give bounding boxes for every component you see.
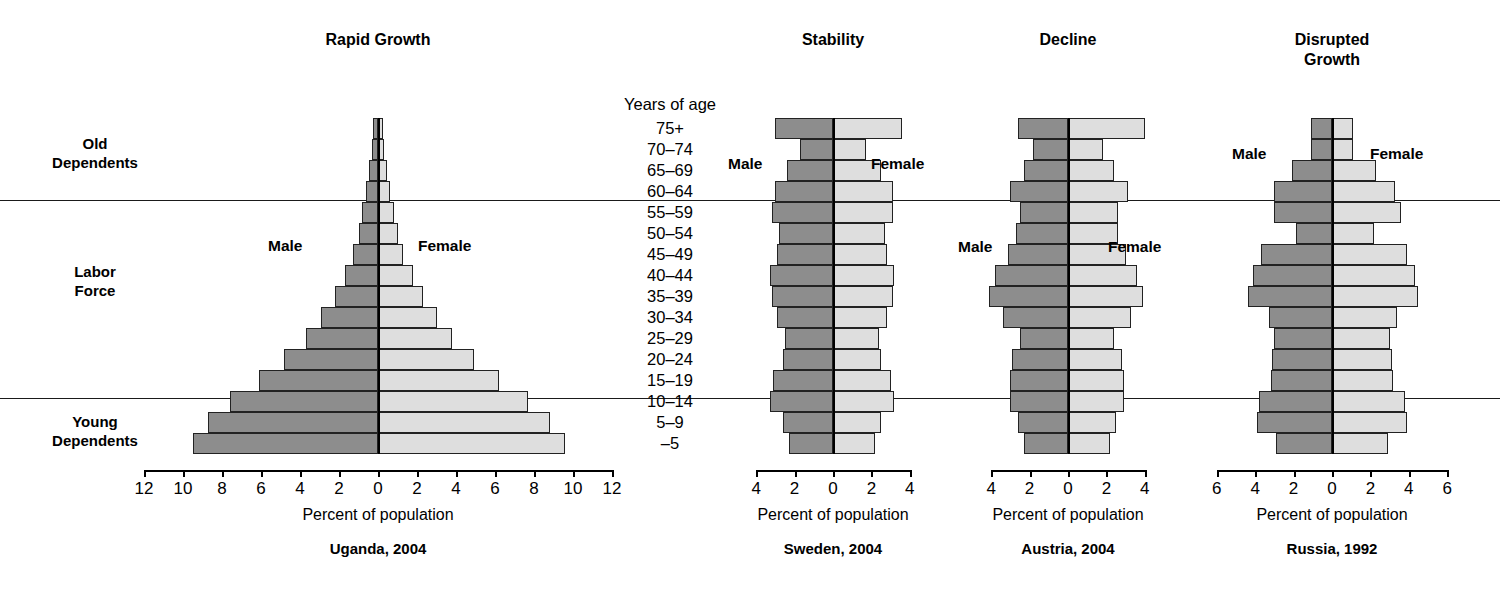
- x-axis-tick-label: 2: [397, 479, 437, 499]
- x-axis-tick-label: 6: [475, 479, 515, 499]
- x-axis-tick: [1409, 470, 1411, 477]
- panel-title-russia: Disrupted Growth: [1232, 30, 1432, 70]
- x-axis-tick: [456, 470, 458, 477]
- x-axis-tick-label: 6: [241, 479, 281, 499]
- pyramid-row: [0, 307, 1500, 328]
- x-axis-tick-label: 10: [553, 479, 593, 499]
- panel-title-austria: Decline: [968, 30, 1168, 50]
- x-axis-tick-label: 12: [124, 479, 164, 499]
- x-axis-tick: [222, 470, 224, 477]
- x-axis-tick: [378, 470, 380, 477]
- bar-male: [1311, 139, 1332, 160]
- x-axis-tick-label: 2: [775, 479, 815, 499]
- x-axis-tick: [495, 470, 497, 477]
- bar-female: [1332, 391, 1405, 412]
- x-axis-tick: [261, 470, 263, 477]
- x-axis-tick-label: 0: [813, 479, 853, 499]
- x-axis-label-russia: Percent of population: [1172, 506, 1492, 524]
- bar-female: [1332, 244, 1407, 265]
- bar-male: [1253, 265, 1332, 286]
- x-axis-tick: [756, 470, 758, 477]
- x-axis-tick-label: 10: [163, 479, 203, 499]
- bar-male: [1296, 223, 1332, 244]
- bar-female: [1332, 412, 1407, 433]
- age-axis-title: Years of age: [570, 95, 770, 114]
- bar-male: [1272, 349, 1332, 370]
- bar-female: [1332, 118, 1353, 139]
- x-axis-tick: [1145, 470, 1147, 477]
- x-axis-tick: [183, 470, 185, 477]
- x-axis-tick: [1255, 470, 1257, 477]
- bar-male: [1269, 307, 1332, 328]
- x-axis-tick: [1106, 470, 1108, 477]
- pyramid-row: [0, 160, 1500, 181]
- x-axis-tick-label: 2: [319, 479, 359, 499]
- x-axis-tick-label: 0: [1048, 479, 1088, 499]
- pyramid-row: [0, 181, 1500, 202]
- pyramid-row: [0, 223, 1500, 244]
- x-axis-tick: [1332, 470, 1334, 477]
- x-axis-tick-label: 2: [851, 479, 891, 499]
- x-axis-tick-label: 2: [1086, 479, 1126, 499]
- x-axis-tick: [612, 470, 614, 477]
- pyramid-row: [0, 202, 1500, 223]
- x-axis-tick: [991, 470, 993, 477]
- bar-male: [1276, 433, 1332, 454]
- bar-female: [1332, 328, 1390, 349]
- x-axis-tick-label: 2: [1350, 479, 1390, 499]
- x-axis-tick-label: 4: [1125, 479, 1165, 499]
- pyramid-row: [0, 412, 1500, 433]
- panel-title-uganda: Rapid Growth: [228, 30, 528, 50]
- x-axis-tick-label: 4: [436, 479, 476, 499]
- x-axis-tick: [1217, 470, 1219, 477]
- bar-male: [1311, 118, 1332, 139]
- pyramid-row: [0, 370, 1500, 391]
- bar-male: [1271, 370, 1332, 391]
- female-legend-label-russia: Female: [1370, 145, 1423, 163]
- bar-female: [1332, 307, 1397, 328]
- x-axis-tick: [573, 470, 575, 477]
- x-axis-tick-label: 6: [1197, 479, 1237, 499]
- panel-caption-russia: Russia, 1992: [1172, 540, 1492, 557]
- pyramid-row: [0, 265, 1500, 286]
- pyramid-row: [0, 139, 1500, 160]
- x-axis-tick-label: 2: [1010, 479, 1050, 499]
- pyramid-row: [0, 118, 1500, 139]
- bar-male: [1292, 160, 1332, 181]
- x-axis-tick-label: 0: [1312, 479, 1352, 499]
- panel-title-sweden: Stability: [733, 30, 933, 50]
- x-axis-tick: [1447, 470, 1449, 477]
- bar-female: [1332, 433, 1388, 454]
- bar-female: [1332, 160, 1376, 181]
- bar-female: [1332, 265, 1415, 286]
- x-axis-tick-label: 4: [1389, 479, 1429, 499]
- bar-male: [1274, 328, 1332, 349]
- panel-caption-uganda: Uganda, 2004: [218, 540, 538, 557]
- bar-male: [1257, 412, 1332, 433]
- x-axis-tick: [1294, 470, 1296, 477]
- x-axis-tick-label: 4: [736, 479, 776, 499]
- pyramid-row: [0, 349, 1500, 370]
- bar-female: [1332, 349, 1392, 370]
- bar-female: [1332, 370, 1393, 391]
- bar-male: [1259, 391, 1332, 412]
- x-axis-label-uganda: Percent of population: [218, 506, 538, 524]
- x-axis-tick-label: 12: [592, 479, 632, 499]
- x-axis-tick-label: 6: [1427, 479, 1467, 499]
- bar-female: [1332, 286, 1418, 307]
- bar-female: [1332, 139, 1353, 160]
- x-axis-tick: [795, 470, 797, 477]
- bar-female: [1332, 223, 1374, 244]
- male-legend-label-russia: Male: [1232, 145, 1266, 163]
- x-axis-tick: [833, 470, 835, 477]
- pyramid-row: [0, 244, 1500, 265]
- bar-male: [1261, 244, 1332, 265]
- bar-female: [1332, 181, 1395, 202]
- bar-female: [1332, 202, 1401, 223]
- bar-male: [1248, 286, 1332, 307]
- pyramid-row: [0, 433, 1500, 454]
- x-axis-tick: [144, 470, 146, 477]
- bar-male: [1274, 181, 1332, 202]
- center-axis-line: [1332, 118, 1334, 454]
- x-axis-tick-label: 8: [202, 479, 242, 499]
